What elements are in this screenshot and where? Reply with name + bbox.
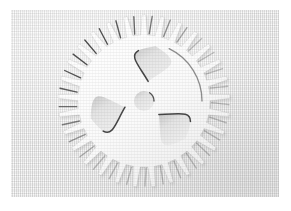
tooth-gap-shadow [210, 117, 227, 123]
tooth-gap-shadow [65, 70, 81, 77]
textured-panel [11, 10, 279, 197]
tooth-gap-shadow [145, 168, 146, 186]
gear-cutout-graphic [11, 10, 279, 197]
tooth-gap-shadow [149, 16, 152, 33]
tooth-gap-shadow [211, 103, 228, 105]
tooth-gap-shadow [60, 88, 77, 92]
tooth-gap-shadow [62, 121, 79, 125]
photo-frame [0, 0, 291, 211]
tooth-gap-shadow [160, 166, 163, 183]
gear-body [58, 15, 231, 188]
tooth-gap-shadow [127, 167, 132, 184]
gear-svg [11, 10, 279, 197]
tooth-gap-shadow [134, 17, 135, 35]
